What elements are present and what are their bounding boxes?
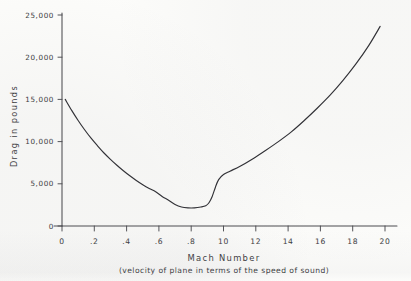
y-axis-tick-label: 5,000 bbox=[30, 179, 54, 188]
x-axis-tick-label: 16 bbox=[315, 237, 326, 246]
x-axis-subtitle: (velocity of plane in terms of the speed… bbox=[119, 266, 329, 275]
y-axis-tick-label: 25,000 bbox=[25, 11, 54, 20]
chart-figure: 05,00010,00015,00020,00025,000 0.2.4.6.8… bbox=[0, 0, 411, 281]
y-axis-title: Drag in pounds bbox=[9, 85, 19, 167]
y-axis-tick-label: 10,000 bbox=[25, 137, 54, 146]
drag-vs-mach-chart: 05,00010,00015,00020,00025,000 0.2.4.6.8… bbox=[0, 0, 411, 281]
x-axis-tick-label: 20 bbox=[380, 237, 391, 246]
x-axis-ticks bbox=[62, 226, 385, 231]
y-axis-tick-label: 0 bbox=[49, 222, 54, 231]
y-axis-tick-labels: 05,00010,00015,00020,00025,000 bbox=[25, 11, 54, 231]
x-axis-tick-label: 14 bbox=[283, 237, 294, 246]
x-axis-tick-label: .8 bbox=[187, 237, 195, 246]
x-axis-title: Mach Number bbox=[188, 253, 261, 263]
x-axis-tick-label: .6 bbox=[155, 237, 163, 246]
x-axis-tick-label: 12 bbox=[250, 237, 261, 246]
y-axis-tick-label: 20,000 bbox=[25, 53, 54, 62]
x-axis-tick-label: 0 bbox=[59, 237, 64, 246]
y-axis-tick-label: 15,000 bbox=[25, 95, 54, 104]
y-axis-ticks bbox=[58, 15, 62, 226]
drag-curve-line bbox=[65, 26, 380, 208]
x-axis-tick-label: .2 bbox=[90, 237, 98, 246]
x-axis-tick-labels: 0.2.4.6.8101214161820 bbox=[59, 237, 390, 246]
x-axis-tick-label: 18 bbox=[347, 237, 358, 246]
x-axis-tick-label: 10 bbox=[218, 237, 229, 246]
x-axis-tick-label: .4 bbox=[122, 237, 130, 246]
